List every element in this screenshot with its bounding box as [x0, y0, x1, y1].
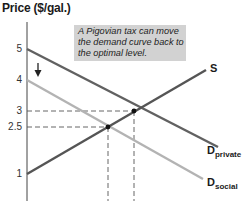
social-equilibrium-point — [106, 125, 111, 130]
private-equilibrium-point — [132, 109, 137, 114]
y-tick-1: 1 — [0, 168, 22, 179]
demand-social-label-sub: social — [215, 182, 238, 191]
pigovian-tax-callout: A Pigovian tax can move the demand curve… — [74, 25, 186, 61]
y-tick-2-5: 2.5 — [0, 121, 22, 132]
demand-social-label-main: D — [207, 176, 215, 188]
supply-label-text: S — [210, 62, 217, 74]
demand-private-label-main: D — [207, 144, 215, 156]
y-tick-5: 5 — [0, 43, 22, 54]
y-tick-3: 3 — [0, 105, 22, 116]
y-tick-4: 4 — [0, 74, 22, 85]
demand-private-label-sub: private — [215, 150, 241, 159]
demand-private-line — [27, 49, 218, 147]
pigovian-tax-chart: Price ($/gal.) 5 4 3 2.5 1 A Pigovian ta… — [0, 0, 248, 201]
demand-private-label: Dprivate — [207, 144, 241, 159]
supply-label: S — [210, 62, 217, 74]
supply-line — [27, 70, 206, 174]
demand-social-label: Dsocial — [207, 176, 238, 191]
down-arrow-icon — [35, 63, 42, 77]
y-axis-title: Price ($/gal.) — [2, 1, 71, 15]
